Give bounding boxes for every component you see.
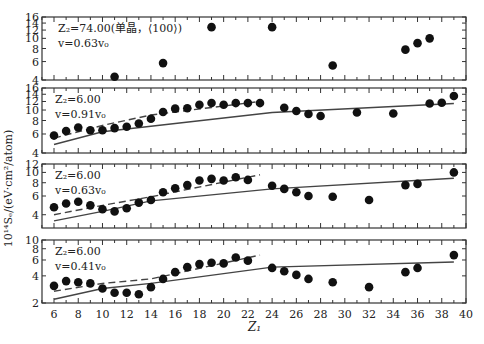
data-point	[171, 104, 180, 113]
x-tick-label: 18	[192, 308, 206, 321]
data-point	[86, 279, 95, 288]
data-point	[147, 283, 156, 292]
data-point	[365, 283, 374, 292]
data-point	[122, 288, 131, 297]
data-point	[268, 264, 277, 273]
figure: 4681012141646810121416468101224681068101…	[0, 0, 484, 344]
data-point	[304, 275, 313, 284]
data-point	[231, 253, 240, 262]
data-point	[183, 104, 192, 113]
x-tick-label: 12	[120, 308, 134, 321]
data-point	[50, 131, 59, 140]
data-point	[207, 99, 216, 108]
data-point	[425, 99, 434, 108]
y-tick-label: 6	[32, 254, 39, 267]
data-point	[74, 123, 83, 132]
panel-2-label-velocity: v=0.91v₀	[55, 107, 106, 122]
y-tick-label: 6	[32, 128, 39, 141]
data-point	[413, 180, 422, 189]
x-tick-label: 36	[411, 308, 425, 321]
data-point	[110, 207, 119, 216]
data-point	[183, 263, 192, 272]
y-axis-label: 10¹⁴Sₑ/(eV·cm²/atom)	[2, 119, 15, 259]
y-tick-label: 10	[25, 234, 39, 247]
data-point	[244, 176, 253, 185]
data-point	[98, 205, 107, 214]
y-tick-label: 6	[32, 56, 39, 69]
data-point	[268, 23, 277, 32]
data-point	[401, 181, 410, 190]
x-tick-label: 24	[265, 308, 279, 321]
x-tick-label: 8	[75, 308, 82, 321]
y-tick-label: 12	[25, 158, 39, 171]
data-point	[231, 173, 240, 182]
x-tick-label: 14	[144, 308, 158, 321]
data-point	[413, 264, 422, 273]
data-point	[244, 256, 253, 265]
x-tick-label: 38	[435, 308, 449, 321]
x-tick-label: 10	[95, 308, 109, 321]
data-point	[207, 258, 216, 267]
data-point	[159, 108, 168, 117]
y-tick-label: 4	[32, 209, 39, 222]
data-point	[365, 196, 374, 205]
y-tick-label: 16	[25, 82, 39, 95]
data-point	[171, 184, 180, 193]
data-point	[195, 260, 204, 269]
data-point	[401, 268, 410, 277]
data-point	[135, 198, 144, 207]
data-point	[135, 290, 144, 299]
data-point	[437, 98, 446, 107]
data-point	[219, 259, 228, 268]
data-point	[62, 277, 71, 286]
data-point	[50, 282, 59, 291]
data-point	[110, 124, 119, 133]
x-tick-label: 6	[51, 308, 58, 321]
data-point	[147, 114, 156, 123]
y-tick-label: 4	[32, 270, 39, 283]
panel-4-label-z2: Z₂=6.00	[55, 244, 106, 259]
data-point	[316, 112, 325, 121]
data-point	[231, 99, 240, 108]
data-point	[110, 72, 119, 81]
data-point	[159, 188, 168, 197]
x-tick-label: 30	[338, 308, 352, 321]
data-point	[219, 100, 228, 109]
panel-3-label-z2: Z₂=6.00	[55, 168, 106, 183]
data-point	[219, 176, 228, 185]
x-tick-label: 26	[289, 308, 303, 321]
data-point	[280, 267, 289, 276]
data-point	[122, 122, 131, 131]
data-point	[413, 39, 422, 48]
panel-4-annotation: Z₂=6.00 v=0.41v₀	[55, 244, 106, 274]
data-point	[292, 107, 301, 116]
data-point	[425, 34, 434, 43]
panel-1-label-z2: Z₂=74.00(单晶，⟨100⟩)	[58, 21, 182, 36]
data-point	[450, 168, 459, 177]
panel-4-label-velocity: v=0.41v₀	[55, 259, 106, 274]
data-point	[159, 59, 168, 68]
data-point	[74, 278, 83, 287]
data-point	[183, 181, 192, 190]
data-point	[98, 126, 107, 135]
data-point	[292, 188, 301, 197]
panel-3-label-velocity: v=0.63v₀	[55, 183, 106, 198]
data-point	[86, 126, 95, 135]
data-point	[328, 61, 337, 70]
data-point	[122, 204, 131, 213]
data-point	[450, 251, 459, 260]
data-point	[280, 185, 289, 194]
data-point	[171, 268, 180, 277]
y-tick-label: 2	[32, 297, 39, 310]
data-point	[50, 203, 59, 212]
x-tick-label: 16	[168, 308, 182, 321]
data-point	[292, 271, 301, 280]
x-axis-label: Z₁	[248, 320, 261, 334]
x-tick-label: 20	[217, 308, 231, 321]
panel-2-label-z2: Z₂=6.00	[55, 92, 106, 107]
data-point	[62, 199, 71, 208]
data-point	[207, 23, 216, 32]
data-point	[389, 109, 398, 118]
x-tick-label: 32	[362, 308, 376, 321]
panel-3-annotation: Z₂=6.00 v=0.63v₀	[55, 168, 106, 198]
